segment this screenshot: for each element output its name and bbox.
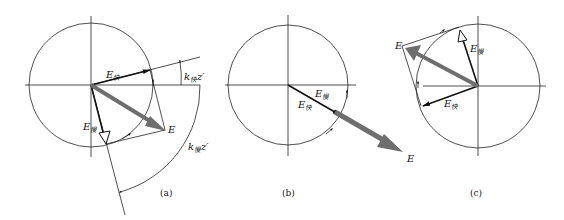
polarization-vector-diagram: E快 E慢 E k快z′ k慢z′ (a) E慢 E快 E (b) xyxy=(0,0,564,220)
caption-a: (a) xyxy=(160,188,172,198)
hollow-arrowhead-icon xyxy=(99,131,110,144)
angle-arc-fast xyxy=(180,62,181,85)
caption-c: (c) xyxy=(470,188,482,198)
hollow-arrowhead-icon xyxy=(458,30,467,42)
label-k-slow-z: k慢z′ xyxy=(188,141,209,154)
angle-arc-slow xyxy=(120,85,200,192)
label-e-a: E xyxy=(167,124,176,135)
e-fast-vector-a xyxy=(91,70,150,85)
label-e-slow-b: E慢 xyxy=(314,88,330,101)
label-e-slow-a: E慢 xyxy=(82,121,98,134)
label-e-slow-c: E慢 xyxy=(469,43,485,56)
rotation-arrow-icon xyxy=(326,129,332,134)
panel-c: E E慢 E快 (c) xyxy=(394,16,546,198)
panel-a: E快 E慢 E k快z′ k慢z′ (a) xyxy=(25,16,209,215)
label-e-fast-b: E快 xyxy=(297,99,312,112)
label-k-fast-z: k快z′ xyxy=(184,71,205,84)
resultant-e-vector-a xyxy=(91,85,158,126)
label-e-b: E xyxy=(406,153,415,164)
label-e-c: E xyxy=(394,40,403,51)
e-fast-vector-b xyxy=(288,85,340,115)
parallelogram-side-c1 xyxy=(402,27,459,46)
caption-b: (b) xyxy=(282,188,295,198)
panel-b: E慢 E快 E (b) xyxy=(225,15,415,198)
label-e-fast-c: E快 xyxy=(443,98,458,111)
parallelogram-side-a2 xyxy=(106,130,165,144)
